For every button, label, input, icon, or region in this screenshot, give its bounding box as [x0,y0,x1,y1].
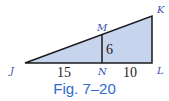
vertex-n-label: N [97,66,108,77]
triangle-jkl [25,16,152,63]
figure-caption: Fig. 7–20 [0,80,169,97]
vertex-j-label: J [8,65,15,76]
length-jn: 15 [57,65,71,80]
length-nl: 10 [123,65,137,80]
length-mn: 6 [106,42,113,57]
vertex-m-label: M [96,22,108,33]
vertex-k-label: K [156,4,165,15]
vertex-l-label: L [156,65,164,76]
